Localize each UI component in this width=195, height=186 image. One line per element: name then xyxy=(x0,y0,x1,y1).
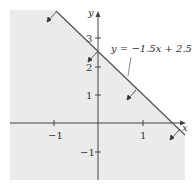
x-tick-label: 1 xyxy=(140,130,146,141)
y-tick-label: 2 xyxy=(86,62,92,73)
x-axis-label: x xyxy=(182,122,188,133)
x-tick-label: −1 xyxy=(48,130,63,141)
y-tick-label: 1 xyxy=(86,90,92,101)
y-tick-label: −1 xyxy=(80,147,95,158)
equation-label: y = −1.5x + 2.5 xyxy=(110,43,192,54)
inequality-graph: −1 1 3 2 1 −1 y x y = −1.5x + 2.5 xyxy=(0,0,195,186)
y-axis-arrow-icon xyxy=(96,11,101,17)
equation-leader-line xyxy=(128,57,131,76)
y-axis-label: y xyxy=(87,7,94,18)
